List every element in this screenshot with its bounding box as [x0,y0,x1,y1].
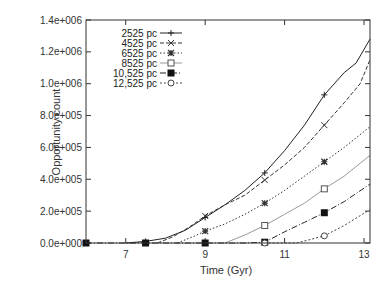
y-tick-label: 6.0e+005 [40,142,82,153]
line-chart: Opportunity count Time (Gyr) 7911130.0e+… [0,0,390,286]
x-tick-label: 13 [358,249,370,260]
series-line [265,210,370,243]
star-marker-icon [168,50,174,56]
star-marker-icon [262,200,268,206]
filled-square-marker-icon [168,70,175,77]
series-line [177,127,370,243]
x-tick-label: 9 [202,249,208,260]
y-tick-label: 1.4e+006 [40,15,82,26]
filled-square-marker-icon [321,209,328,216]
open-square-marker-icon [262,222,268,228]
star-marker-icon [202,228,208,234]
y-tick-label: 4.0e+005 [40,174,82,185]
x-tick-label: 11 [279,249,290,260]
series-line [126,39,370,243]
open-circle-marker-icon [168,80,174,86]
x-tick-label: 7 [123,249,129,260]
series-0 [126,39,370,244]
cross-marker-icon [321,122,327,128]
y-axis-title: Opportunity count [50,89,62,176]
axis-ticks: 7911130.0e+0002.0e+0054.0e+0056.0e+0058.… [40,15,370,261]
y-tick-label: 0.0e+000 [40,238,82,249]
legend: 2525 pc4525 pc6525 pc8525 pc10,525 pc12,… [113,28,182,89]
legend-label: 12,525 pc [113,78,157,89]
plus-marker-icon [168,30,174,36]
series-5 [262,210,370,246]
open-square-marker-icon [321,186,327,192]
y-tick-label: 2.0e+005 [40,206,82,217]
star-marker-icon [321,159,327,165]
y-tick-label: 1.2e+006 [40,46,82,57]
x-axis-title: Time (Gyr) [200,264,252,276]
cross-marker-icon [262,177,268,183]
series-2 [177,127,370,243]
y-tick-label: 1.0e+006 [40,78,82,89]
y-tick-label: 8.0e+005 [40,110,82,121]
open-square-marker-icon [168,60,174,66]
open-circle-marker-icon [321,233,327,239]
